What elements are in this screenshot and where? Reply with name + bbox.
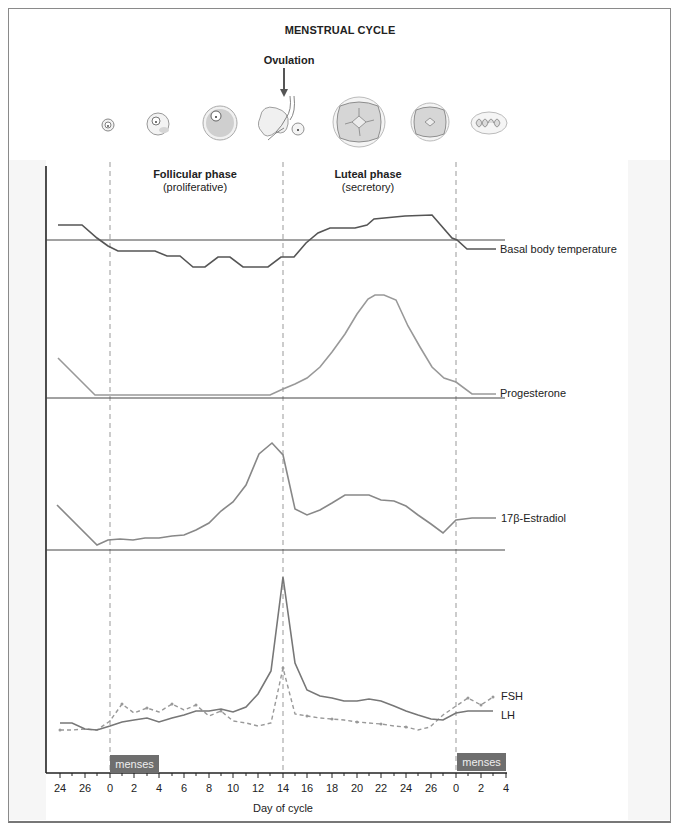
x-tick-label: 4 bbox=[494, 782, 518, 794]
x-tick-label: 8 bbox=[197, 782, 221, 794]
fsh-label: FSH bbox=[501, 690, 523, 702]
x-tick-label: 24 bbox=[394, 782, 418, 794]
phase-name: Luteal phase bbox=[298, 168, 438, 181]
x-tick-label: 16 bbox=[295, 782, 319, 794]
ovulation-rupture-icon bbox=[258, 96, 304, 140]
follicular-phase-label: Follicular phase (proliferative) bbox=[125, 168, 265, 194]
luteal-phase-label: Luteal phase (secretory) bbox=[298, 168, 438, 194]
x-tick-label: 2 bbox=[122, 782, 146, 794]
lh-label: LH bbox=[501, 709, 515, 721]
x-tick-label: 14 bbox=[271, 782, 295, 794]
x-tick-label: 26 bbox=[73, 782, 97, 794]
menses-bar: menses bbox=[110, 755, 159, 773]
x-tick-label: 20 bbox=[345, 782, 369, 794]
progesterone-line bbox=[58, 295, 496, 395]
regressing-corpus-luteum-icon bbox=[411, 103, 449, 141]
progesterone-label: Progesterone bbox=[500, 387, 566, 399]
menstrual-cycle-plot bbox=[0, 0, 680, 836]
phase-subtitle: (secretory) bbox=[342, 181, 395, 193]
corpus-albicans-icon bbox=[471, 112, 507, 134]
estradiol-line bbox=[57, 443, 496, 545]
x-tick-label: 24 bbox=[48, 782, 72, 794]
bbt-label: Basal body temperature bbox=[500, 243, 617, 255]
x-tick-label: 10 bbox=[221, 782, 245, 794]
phase-subtitle: (proliferative) bbox=[163, 181, 227, 193]
x-tick-label: 2 bbox=[469, 782, 493, 794]
estradiol-label: 17β-Estradiol bbox=[501, 512, 566, 524]
x-tick-label: 18 bbox=[320, 782, 344, 794]
primary-follicle-icon bbox=[147, 113, 169, 135]
x-axis-title: Day of cycle bbox=[0, 802, 566, 814]
x-tick-label: 0 bbox=[444, 782, 468, 794]
phase-name: Follicular phase bbox=[125, 168, 265, 181]
x-tick-label: 22 bbox=[369, 782, 393, 794]
ovulation-arrow-icon bbox=[280, 68, 288, 97]
x-tick-label: 6 bbox=[172, 782, 196, 794]
menses-bar-next-cycle: menses bbox=[457, 753, 506, 771]
primordial-follicle-icon bbox=[102, 119, 114, 131]
x-tick-label: 12 bbox=[246, 782, 270, 794]
x-axis-ticks bbox=[60, 773, 506, 778]
x-tick-label: 0 bbox=[98, 782, 122, 794]
bbt-line bbox=[58, 215, 496, 267]
antral-follicle-icon bbox=[203, 106, 237, 140]
x-tick-label: 4 bbox=[147, 782, 171, 794]
corpus-luteum-icon bbox=[333, 97, 385, 147]
x-tick-label: 26 bbox=[419, 782, 443, 794]
